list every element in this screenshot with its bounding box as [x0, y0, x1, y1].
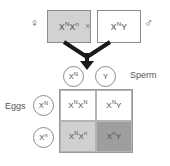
- punnett-cell-offspring-1: XNXN: [60, 90, 96, 121]
- egg-gamete-2-genotype: Xn: [39, 133, 47, 142]
- sperm1-superscript: N: [74, 71, 78, 77]
- punnett-cell-3-genotype: XNXn: [69, 132, 88, 141]
- sperm-gamete-1-genotype: XN: [69, 72, 78, 81]
- sperm-gamete-2: Y: [95, 66, 116, 87]
- sperm-gamete-1: XN: [63, 66, 84, 87]
- cell2-allele2-letter: Y: [116, 101, 122, 110]
- male-parent-box: XNY: [97, 10, 141, 43]
- egg2-superscript: n: [44, 132, 47, 138]
- male-parent-genotype: XNY: [111, 22, 127, 32]
- female-parent-genotype: XNXn: [59, 22, 79, 32]
- punnett-cell-2-genotype: XNY: [106, 101, 121, 110]
- sperm2-letter: Y: [103, 72, 108, 81]
- male-allele2-letter: Y: [121, 22, 127, 32]
- cell3-allele2-superscript: n: [84, 130, 87, 136]
- cross-symbol: ×: [85, 21, 90, 31]
- sperm-label: Sperm: [130, 70, 157, 80]
- female-sex-symbol: ♀: [30, 17, 39, 29]
- cell1-allele2-superscript: N: [84, 99, 88, 105]
- punnett-square-diagram: ♀ XNXn × XNY ♂ XN Y Sperm Eggs XN Xn XNX…: [0, 0, 170, 166]
- egg-gamete-1: XN: [33, 95, 54, 116]
- punnett-cell-offspring-2: XNY: [96, 90, 132, 121]
- cell4-allele2-letter: Y: [116, 132, 122, 141]
- male-sex-symbol: ♂: [144, 17, 153, 29]
- punnett-cell-4-genotype: XnY: [107, 132, 121, 141]
- female-allele2-superscript: n: [75, 21, 79, 27]
- punnett-grid: XNXN XNY XNXn XnY: [59, 89, 133, 153]
- punnett-cell-1-genotype: XNXN: [68, 101, 87, 110]
- egg1-superscript: N: [44, 100, 48, 106]
- sperm-gamete-2-genotype: Y: [103, 72, 108, 81]
- punnett-cell-offspring-4: XnY: [96, 121, 132, 152]
- eggs-label: Eggs: [5, 101, 26, 111]
- punnett-cell-offspring-3: XNXn: [60, 121, 96, 152]
- egg-gamete-1-genotype: XN: [39, 101, 48, 110]
- egg-gamete-2: Xn: [33, 127, 54, 148]
